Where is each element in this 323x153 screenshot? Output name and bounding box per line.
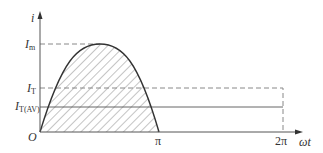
waveform-diagram (0, 0, 323, 153)
x-axis-arrow-icon (295, 130, 303, 135)
x-axis-label: ωt (299, 136, 311, 148)
y-axis-arrow-icon (38, 11, 43, 19)
x-tick-pi: π (155, 135, 161, 147)
label-itav: IT(AV) (15, 100, 40, 114)
origin-label: O (28, 131, 37, 143)
label-im: Im (25, 38, 35, 52)
label-it: IT (27, 82, 36, 96)
y-axis-label: i (31, 12, 34, 24)
x-tick-2pi: 2π (275, 135, 287, 147)
